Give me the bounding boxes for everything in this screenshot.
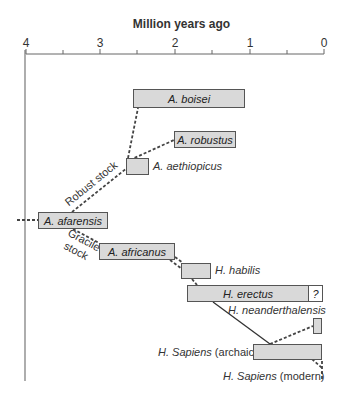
label-a-aethiopicus: A. aethiopicus [153, 160, 222, 172]
uncertain-end-marker: ? [308, 285, 323, 302]
label-h-sapiens-archaic: H. Sapiens (archaic) [158, 346, 258, 358]
bar-h-habilis [181, 263, 211, 279]
hominid-timeline-chart: Million years ago 4 3 2 1 0 [0, 0, 363, 406]
label-h-sapiens-modern: H. Sapiens (modern) [223, 370, 325, 382]
bar-a-robustus: A. robustus [174, 131, 236, 148]
bar-a-aethiopicus [126, 158, 149, 175]
bar-a-africanus: A. africanus [99, 243, 175, 260]
label-h-neanderthalensis: H. neanderthalensis [228, 304, 326, 316]
label-h-habilis: H. habilis [215, 264, 260, 276]
bar-a-boisei: A. boisei [133, 89, 245, 108]
bar-h-erectus: H. erectus [187, 285, 309, 302]
bar-h-sapiens-archaic [253, 344, 322, 360]
bar-h-neanderthalensis [313, 318, 322, 334]
